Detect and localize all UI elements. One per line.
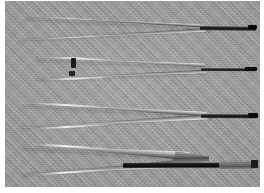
- tweezer-4: [5, 131, 260, 187]
- tweezer-2: [5, 43, 260, 91]
- tweezer-4-tip-end: [251, 160, 258, 168]
- tweezer-2-upper-mark: [71, 58, 76, 68]
- tweezer-4-flat-tip: [219, 160, 255, 168]
- tweezer-2-tip-end: [245, 67, 257, 71]
- tweezer-1: [5, 1, 260, 47]
- tweezer-3-tip-end: [248, 113, 258, 118]
- tweezer-4-flat-shank: [123, 162, 227, 168]
- tweezer-2-lower-mark: [69, 71, 75, 76]
- photograph: [5, 1, 260, 187]
- tweezer-3: [5, 89, 260, 137]
- screenshot-canvas: Four pairs of tweezers on gray woven bac…: [0, 0, 264, 193]
- tweezer-1-tip-end: [248, 25, 257, 29]
